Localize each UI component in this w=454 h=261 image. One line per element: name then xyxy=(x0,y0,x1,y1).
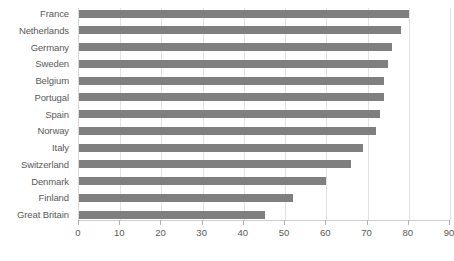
category-label: Denmark xyxy=(0,176,74,187)
x-axis-tick xyxy=(119,220,120,225)
bar-row xyxy=(79,75,450,86)
bar[interactable] xyxy=(79,177,326,185)
category-label: Sweden xyxy=(0,58,74,69)
category-label: Belgium xyxy=(0,75,74,86)
x-axis-tick-label: 60 xyxy=(320,227,331,239)
category-label: Portugal xyxy=(0,92,74,103)
bar[interactable] xyxy=(79,144,363,152)
x-axis-tick-label: 0 xyxy=(75,227,80,239)
x-axis-tick xyxy=(160,220,161,225)
bar-row xyxy=(79,42,450,53)
bar-row xyxy=(79,192,450,203)
bar[interactable] xyxy=(79,110,380,118)
bar-row xyxy=(79,25,450,36)
plot-area xyxy=(78,8,450,220)
x-axis-tick-label: 90 xyxy=(444,227,454,239)
x-axis-tick-labels: 0102030405060708090 xyxy=(78,227,449,243)
bar-chart: FranceNetherlandsGermanySwedenBelgiumPor… xyxy=(0,0,454,261)
x-axis-ticks xyxy=(78,220,449,226)
bar-row xyxy=(79,209,450,220)
bar-row xyxy=(79,8,450,19)
x-axis-tick xyxy=(367,220,368,225)
bar[interactable] xyxy=(79,77,384,85)
x-axis-tick xyxy=(202,220,203,225)
bar[interactable] xyxy=(79,43,392,51)
category-label: Netherlands xyxy=(0,25,74,36)
bar-series xyxy=(79,8,450,220)
x-axis-tick xyxy=(408,220,409,225)
x-axis-tick xyxy=(78,220,79,225)
category-label: Italy xyxy=(0,142,74,153)
bar-row xyxy=(79,125,450,136)
bar-row xyxy=(79,109,450,120)
category-label: Spain xyxy=(0,109,74,120)
bar[interactable] xyxy=(79,93,384,101)
bar[interactable] xyxy=(79,127,376,135)
x-axis-tick xyxy=(243,220,244,225)
bar[interactable] xyxy=(79,10,409,18)
bar-row xyxy=(79,142,450,153)
gridline xyxy=(450,8,451,220)
x-axis-tick-label: 30 xyxy=(196,227,207,239)
x-axis-tick xyxy=(325,220,326,225)
category-label: France xyxy=(0,8,74,19)
bar-row xyxy=(79,92,450,103)
bar-row xyxy=(79,58,450,69)
x-axis-tick xyxy=(449,220,450,225)
x-axis-tick-label: 50 xyxy=(279,227,290,239)
bar-row xyxy=(79,159,450,170)
bar[interactable] xyxy=(79,160,351,168)
category-label: Switzerland xyxy=(0,159,74,170)
category-axis-labels: FranceNetherlandsGermanySwedenBelgiumPor… xyxy=(0,8,74,220)
bar[interactable] xyxy=(79,60,388,68)
bar[interactable] xyxy=(79,26,401,34)
x-axis-tick-label: 20 xyxy=(155,227,166,239)
bar[interactable] xyxy=(79,211,265,219)
bar[interactable] xyxy=(79,194,293,202)
x-axis-tick-label: 10 xyxy=(114,227,125,239)
category-label: Finland xyxy=(0,192,74,203)
x-axis-tick-label: 70 xyxy=(361,227,372,239)
chart-plot-wrapper: FranceNetherlandsGermanySwedenBelgiumPor… xyxy=(0,0,454,261)
x-axis-tick-label: 80 xyxy=(402,227,413,239)
category-label: Germany xyxy=(0,42,74,53)
category-label: Great Britain xyxy=(0,209,74,220)
x-axis-tick-label: 40 xyxy=(238,227,249,239)
category-label: Norway xyxy=(0,125,74,136)
x-axis-tick xyxy=(284,220,285,225)
bar-row xyxy=(79,176,450,187)
